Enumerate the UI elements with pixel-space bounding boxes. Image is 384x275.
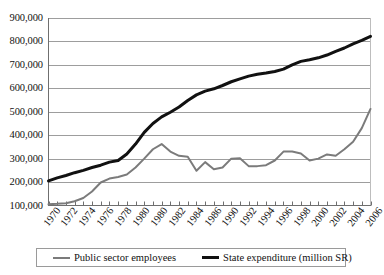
legend-item-state-expenditure: State expenditure (million SR) xyxy=(202,252,352,263)
axis-lines xyxy=(48,18,371,206)
legend-label: Public sector employees xyxy=(74,252,176,263)
legend-item-public-sector-employees: Public sector employees xyxy=(53,252,176,263)
x-axis-tick-label: 1978 xyxy=(112,205,134,228)
black-line-swatch xyxy=(202,256,219,259)
data-series xyxy=(49,36,371,204)
x-axis-tick-label: 1972 xyxy=(58,205,80,228)
x-axis-tick-label: 1984 xyxy=(184,205,206,228)
x-axis-tick-label: 1970 xyxy=(41,205,63,228)
gridlines xyxy=(49,19,371,183)
x-axis-tick-label: 1992 xyxy=(237,205,259,228)
x-axis-tick-label: 2000 xyxy=(309,205,331,228)
x-axis-tick-label: 2004 xyxy=(345,205,367,228)
x-axis-tick-label: 2002 xyxy=(327,205,349,228)
x-axis-tick-label: 1982 xyxy=(166,205,188,228)
x-axis-tick-label: 1980 xyxy=(130,205,152,228)
x-axis-tick-label: 1976 xyxy=(94,205,116,228)
grey-line-swatch xyxy=(53,257,70,259)
x-axis-tick-label: 1990 xyxy=(219,205,241,228)
legend-items: Public sector employees State expenditur… xyxy=(37,249,345,266)
plot-area: 900,000800,000700,000600,000500,000400,0… xyxy=(0,0,382,240)
x-axis-tick-label: 1980 xyxy=(148,205,170,228)
x-axis-tick-label: 1974 xyxy=(76,205,98,228)
x-axis-tick-label: 1986 xyxy=(202,205,224,228)
legend-label: State expenditure (million SR) xyxy=(223,252,352,263)
x-axis-tick-label: 2006 xyxy=(363,205,384,228)
chart-canvas xyxy=(0,0,382,240)
x-axis-tick-label: 1994 xyxy=(255,205,277,228)
x-axis-tick-label: 1998 xyxy=(291,205,313,228)
series-line xyxy=(49,109,371,204)
x-axis-tick-label: 1996 xyxy=(273,205,295,228)
x-axis-labels: 1970197219741976197819801980198219841986… xyxy=(0,205,382,245)
chart-legend: Public sector employees State expenditur… xyxy=(36,248,346,267)
